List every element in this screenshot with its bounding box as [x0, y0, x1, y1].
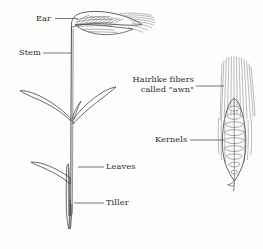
label-ear: Ear: [36, 14, 51, 24]
label-awn-line2: called "awn": [116, 85, 194, 95]
label-kernels: Kernels: [155, 135, 187, 145]
label-tiller: Tiller: [106, 198, 129, 208]
wheat-diagram: [0, 0, 263, 249]
upper-leaves: [20, 87, 116, 124]
label-stem: Stem: [19, 48, 41, 58]
tiller-and-lower-leaf: [31, 162, 72, 229]
spike-detail-drawing: [218, 56, 255, 191]
label-leaves: Leaves: [106, 162, 135, 172]
ear-drawing: [71, 11, 155, 34]
